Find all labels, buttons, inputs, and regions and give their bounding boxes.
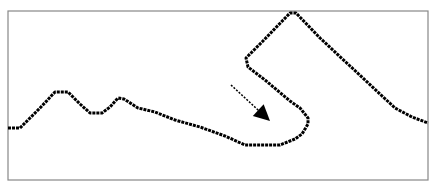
- plot-frame: [8, 11, 428, 180]
- arrow-icon: [231, 85, 270, 121]
- profile-curve: [8, 13, 428, 145]
- diagram-canvas: [0, 0, 437, 185]
